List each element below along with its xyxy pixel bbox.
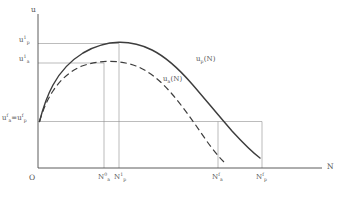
x-axis-label: N (327, 163, 334, 171)
x-tick-label-N-a-f: Nfa (212, 174, 223, 181)
x-tick-label-N-a-0: N0a (98, 174, 110, 181)
axes (38, 14, 322, 168)
curve-u-a (40, 61, 225, 162)
origin-label: O (29, 174, 35, 182)
figure-canvas (0, 0, 342, 197)
utility-curve-figure: u N O u1p u1a ufa=ufp N0a N1p Nfa Nfp up… (0, 0, 342, 197)
x-tick-label-N-p-1: N1p (114, 174, 126, 181)
curve-label-u-a: ua(N) (163, 76, 182, 83)
y-tick-label-u-f-equality: ufa=ufp (2, 115, 27, 122)
curve-label-u-p: up(N) (196, 56, 216, 63)
y-tick-label-u-p-1: u1p (19, 37, 30, 44)
x-tick-label-N-p-f: Nfp (256, 174, 267, 181)
y-axis-label: u (31, 6, 36, 14)
curve-u-p (40, 42, 261, 158)
y-tick-label-u-a-1: u1a (19, 56, 29, 63)
